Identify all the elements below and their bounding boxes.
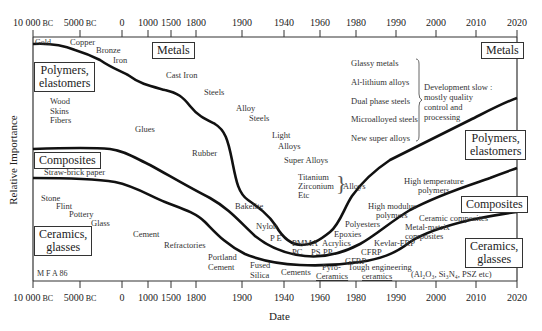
box-metals-center: Metals bbox=[152, 42, 195, 59]
label-ps: PS bbox=[311, 247, 320, 257]
label-cements: Cements bbox=[281, 267, 311, 277]
label-high-modulus-2: polymers bbox=[376, 210, 408, 220]
box-polymers-right: Polymers,elastomers bbox=[465, 130, 526, 160]
label-nylon: Nylon bbox=[256, 221, 277, 231]
label-refractories: Refractories bbox=[164, 240, 206, 250]
tick-bottom-0: 0 bbox=[120, 292, 125, 304]
label-cast-iron: Cast Iron bbox=[166, 70, 197, 80]
label-high-temp-2: polymers bbox=[418, 185, 450, 195]
box-ceramics-right-line2: glasses bbox=[470, 253, 518, 266]
label-cfrp: CFRP bbox=[361, 247, 382, 257]
tick-bottom-2020: 2020 bbox=[507, 292, 527, 304]
tick-top-1900: 1900 bbox=[232, 17, 252, 29]
tick-bottom-2010: 2010 bbox=[466, 292, 486, 304]
label-ceramic-composites: Ceramic composites bbox=[419, 213, 488, 223]
label-microalloyed: Microalloyed steels bbox=[351, 114, 418, 124]
label-pe: P E bbox=[270, 233, 282, 243]
label-tough-2: ceramics bbox=[362, 271, 392, 281]
label-glues: Glues bbox=[135, 124, 155, 134]
label-formula: (Al₂O₃, Si₃N₄, PSZ etc) bbox=[411, 269, 492, 279]
label-super-alloys: Super Alloys bbox=[284, 155, 328, 165]
label-pp: PP bbox=[323, 247, 332, 257]
label-epoxies: Epoxies bbox=[334, 229, 361, 239]
label-alloy-steels: Steels bbox=[249, 113, 269, 123]
label-dual-phase: Dual phase steels bbox=[351, 96, 410, 106]
label-fibers: Fibers bbox=[50, 115, 71, 125]
x-axis-title: Date bbox=[269, 310, 290, 322]
tick-bottom-1900: 1900 bbox=[232, 292, 252, 304]
label-al-lithium: Al-lithium alloys bbox=[351, 77, 409, 87]
label-bronze: Bronze bbox=[96, 45, 121, 55]
label-gold: Gold bbox=[35, 38, 51, 48]
label-pc: PC bbox=[292, 247, 302, 257]
y-axis-title: Relative Importance bbox=[7, 115, 19, 205]
tick-top-1000: 1000 bbox=[138, 17, 158, 29]
label-light: Light bbox=[272, 130, 290, 140]
label-dev-slow-4: processing bbox=[424, 112, 460, 122]
label-alloys: Alloys bbox=[343, 181, 366, 191]
box-metals-right: Metals bbox=[481, 42, 524, 59]
tick-bottom-5000bc: 5000 BC bbox=[64, 292, 97, 305]
box-composites-right: Composites bbox=[461, 196, 528, 213]
tick-top-1940: 1940 bbox=[274, 17, 294, 29]
box-ceramics-left-line2: glasses bbox=[39, 241, 87, 254]
label-fused-1: Fused bbox=[250, 260, 270, 270]
tick-top-1500: 1500 bbox=[161, 17, 181, 29]
label-dev-slow-2: mostly quality bbox=[424, 92, 473, 102]
tick-bottom-1800: 1800 bbox=[186, 292, 206, 304]
label-polyesters: Polyesters bbox=[345, 219, 380, 229]
label-bakelite: Bakelite bbox=[235, 201, 263, 211]
label-glassy-metals: Glassy metals bbox=[351, 58, 398, 68]
box-polymers-left-line2: elastomers bbox=[39, 77, 90, 90]
tick-top-1980: 1980 bbox=[346, 17, 366, 29]
label-metal-matrix-2: composites bbox=[405, 231, 443, 241]
tick-bottom-1980: 1980 bbox=[346, 292, 366, 304]
box-polymers-right-line2: elastomers bbox=[470, 145, 521, 158]
label-copper: Copper bbox=[70, 37, 95, 47]
tick-top-1800: 1800 bbox=[186, 17, 206, 29]
tick-top-2010: 2010 bbox=[466, 17, 486, 29]
tick-bottom-1500: 1500 bbox=[161, 292, 181, 304]
tick-top-1960: 1960 bbox=[310, 17, 330, 29]
box-ceramics-left: Ceramics,glasses bbox=[34, 226, 92, 256]
label-portland-2: Cement bbox=[208, 262, 234, 272]
tick-top-2000: 2000 bbox=[426, 17, 446, 29]
tick-bottom-10000bc: 10 000 BC bbox=[13, 292, 53, 305]
tick-bottom-1960: 1960 bbox=[310, 292, 330, 304]
tick-top-0: 0 bbox=[120, 17, 125, 29]
box-ceramics-right: Ceramics,glasses bbox=[465, 238, 523, 268]
label-cement: Cement bbox=[133, 229, 159, 239]
label-pottery: Pottery bbox=[69, 209, 94, 219]
bottom-ticks bbox=[33, 281, 517, 288]
box-polymers-left: Polymers,elastomers bbox=[34, 62, 95, 92]
label-dev-slow-1: Development slow : bbox=[424, 82, 492, 92]
brace-large-icon bbox=[414, 58, 424, 142]
tick-bottom-2000: 2000 bbox=[426, 292, 446, 304]
label-rubber: Rubber bbox=[192, 148, 217, 158]
label-pyro-2: Ceramics bbox=[316, 271, 348, 281]
tick-top-10000bc: 10 000 BC bbox=[13, 17, 53, 30]
label-glass: Glass bbox=[91, 218, 110, 228]
label-new-super: New super alloys bbox=[351, 133, 410, 143]
label-iron: Iron bbox=[113, 55, 127, 65]
tick-top-2020: 2020 bbox=[507, 17, 527, 29]
label-straw-brick: Straw-brick paper bbox=[44, 167, 105, 177]
label-alloy: Alloy bbox=[236, 103, 255, 113]
top-ticks bbox=[33, 30, 517, 37]
label-wood: Wood bbox=[50, 96, 70, 106]
tick-bottom-1940: 1940 bbox=[274, 292, 294, 304]
tick-top-1990: 1990 bbox=[386, 17, 406, 29]
label-etc: Etc bbox=[298, 190, 309, 200]
label-steels: Steels bbox=[204, 87, 224, 97]
label-fused-2: Silica bbox=[250, 270, 269, 280]
tick-bottom-1000: 1000 bbox=[138, 292, 158, 304]
label-light-alloys: Alloys bbox=[278, 141, 301, 151]
label-mfa: M F A 86 bbox=[37, 269, 67, 279]
label-portland-1: Portland bbox=[208, 252, 237, 262]
tick-bottom-1990: 1990 bbox=[386, 292, 406, 304]
tick-top-5000bc: 5000 BC bbox=[64, 17, 97, 30]
label-dev-slow-3: control and bbox=[424, 102, 462, 112]
